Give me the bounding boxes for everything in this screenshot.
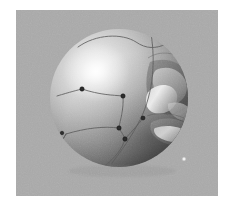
marker-p7 [55,141,59,145]
sphere-scene [16,10,218,196]
marker-p4 [123,137,127,141]
marker-p1 [80,87,84,91]
render-canvas [0,0,231,206]
marker-p3 [117,126,121,130]
marker-p5 [141,116,145,120]
contact-shadow [68,165,176,177]
marker-p2 [121,94,125,98]
marker-p9 [182,157,185,160]
outer-point-markers [182,157,185,160]
render-panel [16,10,218,196]
curve-c7 [52,134,66,152]
marker-p6 [60,131,64,135]
marker-p8 [50,149,54,153]
